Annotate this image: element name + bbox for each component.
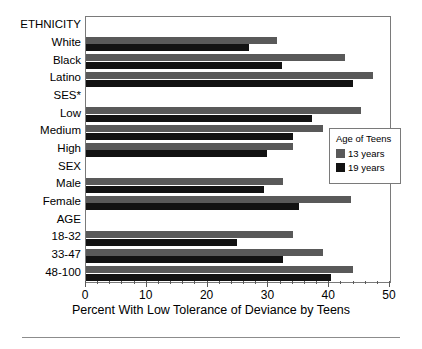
x-tick-minor bbox=[377, 281, 378, 284]
x-tick-label: 40 bbox=[308, 288, 348, 302]
x-tick-major bbox=[207, 281, 208, 287]
bar bbox=[86, 231, 293, 238]
x-tick-minor bbox=[316, 281, 317, 284]
x-tick-minor bbox=[134, 281, 135, 284]
category-label: High bbox=[0, 142, 81, 154]
x-tick-label: 10 bbox=[126, 288, 166, 302]
bar bbox=[86, 44, 249, 51]
category-label: 48-100 bbox=[0, 266, 81, 278]
category-label: Latino bbox=[0, 71, 81, 83]
x-tick-label: 0 bbox=[65, 288, 105, 302]
x-tick-minor bbox=[194, 281, 195, 284]
category-label: SES* bbox=[0, 89, 81, 101]
bar bbox=[86, 107, 361, 114]
category-label: Black bbox=[0, 54, 81, 66]
x-tick-minor bbox=[109, 281, 110, 284]
bar bbox=[86, 203, 299, 210]
x-tick-minor bbox=[304, 281, 305, 284]
bar bbox=[86, 256, 283, 263]
x-tick-major bbox=[267, 281, 268, 287]
bar bbox=[86, 125, 323, 132]
x-axis-title: Percent With Low Tolerance of Deviance b… bbox=[0, 303, 422, 317]
legend-entry-19-years: 19 years bbox=[336, 162, 395, 173]
bar bbox=[86, 239, 237, 246]
bar bbox=[86, 54, 345, 61]
x-tick-minor bbox=[255, 281, 256, 284]
legend-entry-13-years: 13 years bbox=[336, 148, 395, 159]
x-tick-major bbox=[146, 281, 147, 287]
legend: Age of Teens 13 years 19 years bbox=[329, 128, 401, 184]
bar bbox=[86, 150, 267, 157]
category-label: ETHNICITY bbox=[0, 18, 81, 30]
x-tick-minor bbox=[121, 281, 122, 284]
category-label: Low bbox=[0, 107, 81, 119]
x-tick-minor bbox=[219, 281, 220, 284]
x-tick-label: 50 bbox=[369, 288, 409, 302]
bar bbox=[86, 178, 283, 185]
x-tick-major bbox=[328, 281, 329, 287]
x-tick-minor bbox=[292, 281, 293, 284]
x-tick-minor bbox=[365, 281, 366, 284]
bar bbox=[86, 143, 293, 150]
x-tick-minor bbox=[340, 281, 341, 284]
bar-chart-figure: ETHNICITYWhiteBlackLatinoSES*LowMediumHi… bbox=[0, 0, 422, 349]
bar bbox=[86, 196, 351, 203]
category-axis: ETHNICITYWhiteBlackLatinoSES*LowMediumHi… bbox=[0, 16, 83, 281]
category-label: AGE bbox=[0, 213, 81, 225]
bar bbox=[86, 133, 293, 140]
x-tick-label: 30 bbox=[247, 288, 287, 302]
legend-swatch-13-years bbox=[336, 149, 345, 158]
bar bbox=[86, 249, 323, 256]
bar bbox=[86, 274, 331, 281]
category-label: Female bbox=[0, 195, 81, 207]
bar bbox=[86, 266, 353, 273]
legend-label-19-years: 19 years bbox=[348, 162, 384, 173]
category-label: White bbox=[0, 36, 81, 48]
x-tick-minor bbox=[182, 281, 183, 284]
bar bbox=[86, 62, 282, 69]
bar bbox=[86, 80, 353, 87]
x-tick-major bbox=[85, 281, 86, 287]
category-label: Male bbox=[0, 177, 81, 189]
category-label: 18-32 bbox=[0, 230, 81, 242]
legend-swatch-19-years bbox=[336, 163, 345, 172]
bar bbox=[86, 37, 277, 44]
x-tick-minor bbox=[170, 281, 171, 284]
category-label: 33-47 bbox=[0, 248, 81, 260]
footer-divider bbox=[22, 337, 400, 338]
legend-label-13-years: 13 years bbox=[348, 148, 384, 159]
bar bbox=[86, 186, 264, 193]
x-tick-minor bbox=[158, 281, 159, 284]
category-label: SEX bbox=[0, 160, 81, 172]
x-tick-minor bbox=[243, 281, 244, 284]
bar bbox=[86, 115, 312, 122]
x-tick-minor bbox=[280, 281, 281, 284]
x-tick-minor bbox=[97, 281, 98, 284]
x-tick-minor bbox=[231, 281, 232, 284]
x-tick-label: 20 bbox=[187, 288, 227, 302]
legend-title: Age of Teens bbox=[336, 133, 395, 145]
bar bbox=[86, 72, 373, 79]
x-tick-major bbox=[389, 281, 390, 287]
category-label: Medium bbox=[0, 124, 81, 136]
x-tick-minor bbox=[353, 281, 354, 284]
